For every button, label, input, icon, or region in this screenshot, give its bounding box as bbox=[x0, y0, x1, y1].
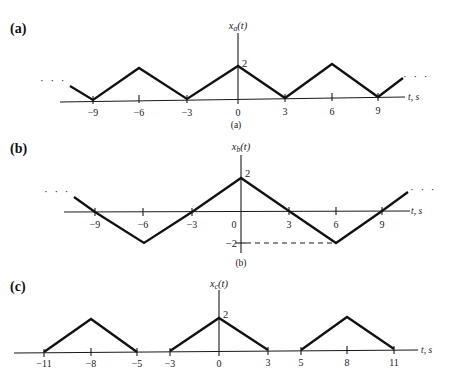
svg-text:−3: −3 bbox=[187, 219, 198, 230]
svg-text:−5: −5 bbox=[132, 358, 143, 369]
panel-c-x-axis bbox=[14, 350, 418, 353]
panel-b-y-label: xb(t) bbox=[231, 141, 251, 154]
svg-text:5: 5 bbox=[299, 357, 304, 368]
svg-text:9: 9 bbox=[376, 105, 381, 116]
panel-a-peak-value: 2 bbox=[242, 58, 247, 69]
svg-text:11: 11 bbox=[389, 357, 399, 368]
svg-text:−6: −6 bbox=[138, 219, 149, 230]
svg-text:−8: −8 bbox=[86, 358, 97, 369]
svg-text:0: 0 bbox=[232, 219, 237, 230]
svg-text:6: 6 bbox=[334, 219, 339, 230]
panel-a: (a) xa(t) 2 t, s · · · · · · −9 −6 −3 0 … bbox=[10, 20, 430, 131]
panel-a-caption: (a) bbox=[231, 120, 242, 131]
panel-a-signal bbox=[70, 64, 403, 100]
panel-b-left-ellipsis: · · · bbox=[44, 185, 71, 197]
panel-a-x-label: t, s bbox=[408, 92, 419, 102]
svg-text:−3: −3 bbox=[182, 107, 193, 118]
panel-c-tick-labels: −11 −8 −5 −3 0 3 5 8 11 bbox=[36, 357, 398, 369]
svg-text:−9: −9 bbox=[88, 107, 99, 118]
panel-b-right-ellipsis: · · · bbox=[410, 183, 437, 195]
panel-c-peak-value: 2 bbox=[223, 309, 228, 320]
svg-text:−11: −11 bbox=[36, 358, 51, 369]
panel-a-label: (a) bbox=[10, 21, 27, 37]
svg-text:−9: −9 bbox=[90, 219, 101, 230]
panel-b-x-axis bbox=[64, 211, 410, 212]
svg-text:6: 6 bbox=[330, 106, 335, 117]
panel-c-label: (c) bbox=[10, 279, 26, 295]
panel-a-right-ellipsis: · · · bbox=[403, 70, 430, 82]
svg-text:3: 3 bbox=[266, 357, 271, 368]
panel-b-peak-value: 2 bbox=[245, 168, 250, 179]
panel-c-x-label: t, s bbox=[421, 345, 432, 355]
panel-a-x-axis bbox=[60, 97, 405, 102]
panel-b-trough-value: −2 bbox=[226, 238, 237, 249]
panel-c-pulse-left bbox=[44, 319, 137, 352]
svg-text:0: 0 bbox=[236, 107, 241, 118]
svg-text:−3: −3 bbox=[165, 358, 176, 369]
panel-a-tick-labels: −9 −6 −3 0 3 6 9 bbox=[88, 105, 381, 118]
panel-a-left-ellipsis: · · · bbox=[40, 74, 67, 86]
svg-text:3: 3 bbox=[287, 219, 292, 230]
svg-text:0: 0 bbox=[217, 358, 222, 369]
panel-c-y-label: xc(t) bbox=[209, 278, 228, 291]
svg-text:−6: −6 bbox=[134, 107, 145, 118]
panel-c: (c) xc(t) 2 t, s −11 −8 −5 −3 0 3 5 8 11 bbox=[10, 278, 432, 369]
svg-text:3: 3 bbox=[283, 106, 288, 117]
svg-text:9: 9 bbox=[380, 219, 385, 230]
panel-b-x-label: t, s bbox=[411, 206, 422, 216]
panel-b-caption: (b) bbox=[235, 258, 246, 269]
signal-figure: (a) xa(t) 2 t, s · · · · · · −9 −6 −3 0 … bbox=[0, 0, 457, 369]
svg-text:8: 8 bbox=[345, 357, 350, 368]
panel-b-tick-labels: −9 −6 −3 0 3 6 9 bbox=[90, 219, 385, 230]
panel-c-pulse-right bbox=[301, 317, 394, 350]
panel-b-label: (b) bbox=[10, 141, 27, 157]
panel-a-y-label: xa(t) bbox=[228, 20, 248, 33]
panel-b: (b) xb(t) 2 −2 t, s · · · · · · −9 −6 −3… bbox=[10, 141, 437, 269]
